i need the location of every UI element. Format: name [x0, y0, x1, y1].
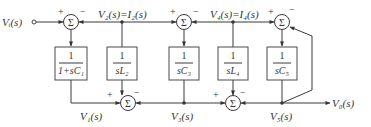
plus-sign: + — [213, 89, 219, 100]
output-label: V₀(s) — [332, 97, 354, 110]
sigma-symbol: Σ — [181, 17, 187, 28]
block-4-numerator: 1 — [231, 50, 236, 61]
block-5: 1 sC₅ — [267, 47, 297, 80]
plus-sign: + — [268, 6, 274, 17]
signal-v1: V₁(s) — [80, 110, 102, 123]
block-4-denominator: sL₄ — [227, 65, 240, 76]
sigma-symbol: Σ — [125, 98, 131, 109]
plus-sign: + — [170, 6, 176, 17]
plus-sign: + — [58, 6, 64, 17]
block-5-numerator: 1 — [280, 50, 285, 61]
plus-sign: + — [107, 89, 113, 100]
input-terminal — [32, 20, 36, 24]
sigma-symbol: Σ — [68, 17, 74, 28]
sum-top-1: Σ + − — [58, 6, 86, 30]
sum-top-2: Σ + − — [170, 6, 199, 30]
block-1-denominator: 1+sC₁ — [58, 65, 84, 76]
block-5-denominator: sC₅ — [275, 65, 290, 76]
block-1: 1 1+sC₁ — [55, 47, 87, 80]
block-2-numerator: 1 — [120, 50, 125, 61]
block-3: 1 sC₃ — [169, 47, 199, 80]
block-1-numerator: 1 — [69, 50, 74, 61]
block-3-denominator: sC₃ — [177, 65, 192, 76]
block-3-numerator: 1 — [182, 50, 187, 61]
sum-bottom-2: Σ + − — [213, 87, 246, 111]
wire-v1-sum4 — [71, 80, 120, 103]
block-diagram: Vᵢ(s) Σ + − V₂(s)=I₂(s) Σ + − V₄(s)=I₄(s… — [0, 0, 371, 127]
signal-v3: V₃(s) — [171, 110, 193, 123]
minus-sign: − — [80, 6, 86, 17]
sigma-symbol: Σ — [279, 17, 285, 28]
block-2: 1 sL₂ — [107, 47, 137, 80]
signal-v5: V₅(s) — [270, 110, 292, 123]
minus-sign: − — [134, 87, 140, 98]
signal-v2-i2: V₂(s)=I₂(s) — [98, 8, 147, 21]
sum-bottom-1: Σ + − — [107, 87, 140, 111]
input-label: Vᵢ(s) — [2, 16, 22, 29]
sum-top-3: Σ + − — [268, 4, 295, 30]
minus-sign: − — [193, 6, 199, 17]
block-2-denominator: sL₂ — [116, 65, 129, 76]
signal-v4-i4: V₄(s)=I₄(s) — [210, 8, 259, 21]
sigma-symbol: Σ — [230, 98, 236, 109]
block-4: 1 sL₄ — [218, 47, 248, 80]
minus-sign: − — [240, 87, 246, 98]
minus-sign: − — [289, 4, 295, 15]
